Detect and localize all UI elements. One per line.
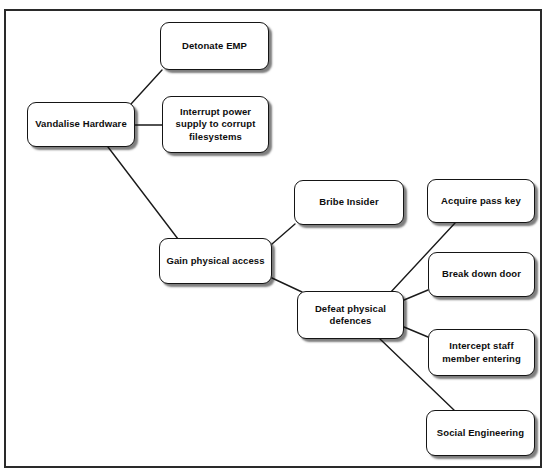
page-border-frame	[4, 9, 542, 468]
node-intercept-staff-member[interactable]: Intercept staff member entering	[428, 329, 535, 376]
node-label: Social Engineering	[432, 427, 529, 439]
node-label: Defeat physical defences	[303, 303, 398, 327]
node-detonate-emp[interactable]: Detonate EMP	[160, 22, 269, 70]
node-interrupt-power-supply[interactable]: Interrupt power supply to corrupt filesy…	[162, 96, 269, 153]
node-label: Bribe Insider	[300, 196, 398, 208]
node-vandalise-hardware[interactable]: Vandalise Hardware	[27, 102, 135, 147]
node-label: Detonate EMP	[166, 40, 263, 52]
attack-tree-diagram: Vandalise Hardware Detonate EMP Interrup…	[0, 0, 551, 473]
node-label: Vandalise Hardware	[33, 118, 129, 130]
node-label: Intercept staff member entering	[434, 340, 529, 364]
node-label: Break down door	[434, 268, 529, 280]
node-break-down-door[interactable]: Break down door	[428, 252, 535, 297]
node-label: Interrupt power supply to corrupt filesy…	[168, 106, 263, 142]
node-acquire-pass-key[interactable]: Acquire pass key	[427, 179, 535, 223]
node-defeat-physical-defences[interactable]: Defeat physical defences	[297, 291, 404, 339]
node-bribe-insider[interactable]: Bribe Insider	[294, 180, 404, 225]
node-label: Gain physical access	[165, 255, 266, 267]
node-social-engineering[interactable]: Social Engineering	[426, 410, 535, 456]
node-label: Acquire pass key	[433, 195, 529, 207]
node-gain-physical-access[interactable]: Gain physical access	[159, 238, 272, 284]
